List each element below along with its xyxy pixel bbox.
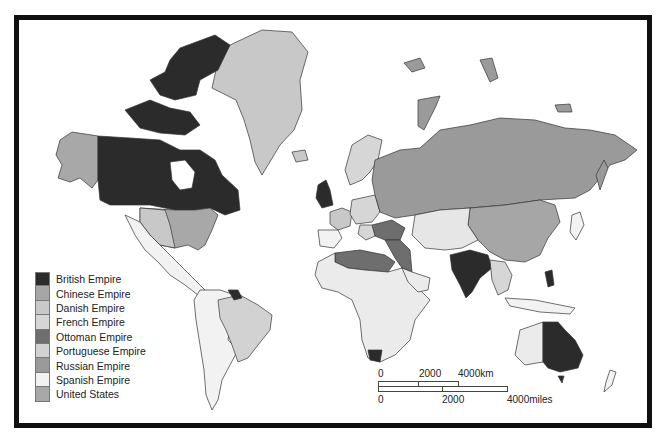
indonesia [505, 298, 575, 314]
balkans [358, 225, 375, 240]
uk-british [316, 180, 333, 208]
map-legend: British Empire Chinese Empire Danish Emp… [35, 272, 146, 402]
swatch-ottoman [35, 330, 50, 344]
canada-british [98, 136, 240, 215]
legend-label: Portuguese Empire [56, 344, 146, 358]
legend-item-ottoman: Ottoman Empire [35, 330, 146, 344]
india-british [450, 250, 492, 298]
legend-item-spanish: Spanish Empire [35, 373, 146, 387]
swatch-danish [35, 301, 50, 315]
swatch-chinese [35, 286, 50, 300]
legend-label: Ottoman Empire [56, 330, 132, 344]
japan [570, 212, 584, 240]
legend-item-british: British Empire [35, 272, 146, 286]
swatch-united-states [35, 387, 50, 401]
svalbard [404, 58, 425, 72]
legend-item-russian: Russian Empire [35, 358, 146, 372]
legend-label: United States [56, 387, 119, 401]
southeast-asia [490, 260, 512, 295]
legend-label: Spanish Empire [56, 373, 130, 387]
central-europe [350, 195, 380, 224]
iceland [292, 150, 308, 162]
legend-item-french: French Empire [35, 315, 146, 329]
scale-miles-tick-2000: 2000 [442, 394, 464, 405]
legend-label: Chinese Empire [56, 287, 131, 301]
france [330, 208, 352, 230]
iberia [318, 230, 342, 248]
scale-km-tick-0: 0 [378, 368, 384, 379]
swatch-british [35, 272, 50, 286]
australia-british [543, 322, 583, 372]
tasmania [558, 376, 564, 383]
scale-km-tick-2000: 2000 [419, 368, 441, 379]
scale-miles-segment-2 [442, 386, 508, 392]
legend-label: Danish Empire [56, 301, 125, 315]
swatch-spanish [35, 373, 50, 387]
scale-miles-tick-0: 0 [378, 394, 384, 405]
legend-item-portuguese: Portuguese Empire [35, 344, 146, 358]
swatch-russian [35, 358, 50, 372]
cape-colony [368, 350, 382, 362]
alaska-us [56, 132, 98, 188]
ottoman-anatolia [372, 220, 405, 240]
novaya-zemlya [418, 96, 440, 130]
swatch-french [35, 315, 50, 329]
philippines [545, 270, 554, 287]
arctic-islands-east [480, 58, 498, 82]
new-siberian-islands [555, 104, 572, 112]
scale-miles-tick-4000: 4000miles [507, 394, 553, 405]
legend-label: French Empire [56, 315, 125, 329]
swatch-portuguese [35, 344, 50, 358]
new-zealand [604, 370, 616, 392]
legend-item-united-states: United States [35, 387, 146, 401]
scale-miles-segment-1 [378, 386, 443, 392]
legend-label: Russian Empire [56, 359, 130, 373]
australia-west [515, 322, 543, 365]
legend-item-chinese: Chinese Empire [35, 286, 146, 300]
legend-label: British Empire [56, 272, 121, 286]
canada-arctic-islands-2 [125, 100, 200, 135]
legend-item-danish: Danish Empire [35, 301, 146, 315]
russia [372, 118, 637, 218]
china [468, 200, 560, 262]
scale-bar: 0 2000 4000km 0 2000 4000miles [378, 368, 558, 408]
scale-km-tick-4000: 4000km [458, 368, 494, 379]
central-asia [412, 208, 478, 250]
